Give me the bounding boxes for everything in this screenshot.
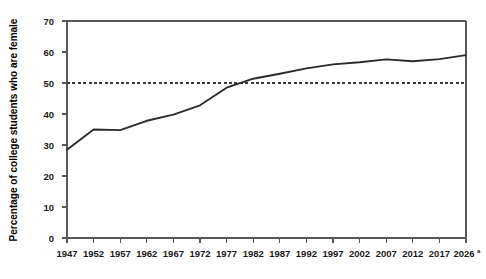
y-tick-label: 30 [43,140,54,151]
x-tick-label: 1987 [269,248,290,259]
x-tick-label: 1992 [296,248,317,259]
x-tick-label: 1947 [56,248,77,259]
y-tick-label: 70 [43,16,54,27]
plot-frame [67,21,466,238]
x-tick-label: 1952 [83,248,104,259]
x-tick-label: 1957 [110,248,131,259]
data-series-line [67,55,466,150]
x-tick-label: 1977 [216,248,237,259]
y-tick-label: 0 [49,233,54,244]
x-tick-label: 1997 [322,248,343,259]
y-axis-title: Percentage of college students who are f… [8,18,19,241]
y-tick-label: 50 [43,78,54,89]
chart-figure: Percentage of college students who are f… [0,0,486,279]
x-tick-label: 2007 [376,248,397,259]
y-tick-label: 60 [43,47,54,58]
x-tick-label: 1967 [163,248,184,259]
x-tick-label: 1982 [243,248,264,259]
x-tick-label-footnote-marker: a [477,248,481,254]
x-tick-label-last: 2026 [453,248,474,259]
y-tick-label: 40 [43,109,54,120]
x-tick-label: 1962 [136,248,157,259]
x-tick-label: 2012 [402,248,423,259]
x-tick-labels: 1947 1952 1957 1962 1967 1972 1977 1982 … [56,248,481,259]
y-tick-label: 20 [43,171,54,182]
x-tick-label: 1972 [189,248,210,259]
y-tick-marks [62,21,67,238]
x-tick-label: 2017 [429,248,450,259]
line-chart-canvas: Percentage of college students who are f… [0,0,486,279]
y-tick-label: 10 [43,202,54,213]
x-tick-marks [67,238,466,243]
y-tick-labels: 70 60 50 40 30 20 10 0 [43,16,54,244]
x-tick-label: 2002 [349,248,370,259]
